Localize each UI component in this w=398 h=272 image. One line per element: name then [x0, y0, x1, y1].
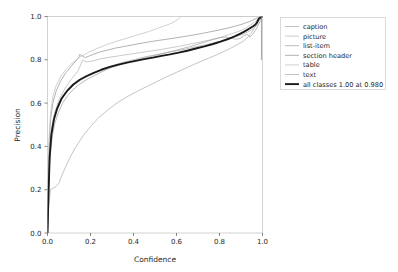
legend-label[interactable]: text [303, 71, 316, 79]
x-axis-label: Confidence [134, 255, 177, 264]
x-tick-label: 0.8 [214, 238, 225, 246]
x-tick-label: 0.4 [128, 238, 140, 246]
x-tick-label: 0.0 [42, 238, 53, 246]
y-tick-label: 1.0 [30, 13, 41, 21]
legend-label[interactable]: all classes 1.00 at 0.980 [303, 81, 383, 89]
legend-label[interactable]: section header [303, 52, 352, 60]
x-tick-label: 1.0 [257, 238, 268, 246]
y-tick-label: 0.4 [30, 143, 42, 151]
y-tick-label: 0.8 [30, 56, 41, 64]
y-tick-label: 0.6 [30, 100, 42, 108]
y-tick-label: 0.2 [30, 186, 41, 194]
x-tick-label: 0.2 [85, 238, 96, 246]
legend-label[interactable]: list-item [303, 42, 330, 50]
legend-label[interactable]: table [303, 61, 320, 69]
legend-label[interactable]: caption [303, 23, 327, 31]
x-tick-label: 0.6 [171, 238, 183, 246]
legend-label[interactable]: picture [303, 33, 326, 41]
y-axis-label: Precision [13, 108, 22, 142]
y-tick-label: 0.0 [30, 230, 41, 238]
plot-frame [48, 17, 263, 234]
chart-figure: 0.00.20.40.60.81.0 0.00.20.40.60.81.0 Co… [0, 0, 398, 272]
precision-confidence-chart: 0.00.20.40.60.81.0 0.00.20.40.60.81.0 Co… [0, 0, 398, 272]
